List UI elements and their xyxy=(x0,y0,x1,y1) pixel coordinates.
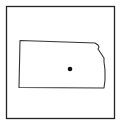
locator-map xyxy=(0,0,120,124)
location-marker xyxy=(68,67,73,72)
state-outline-kansas xyxy=(19,41,105,89)
